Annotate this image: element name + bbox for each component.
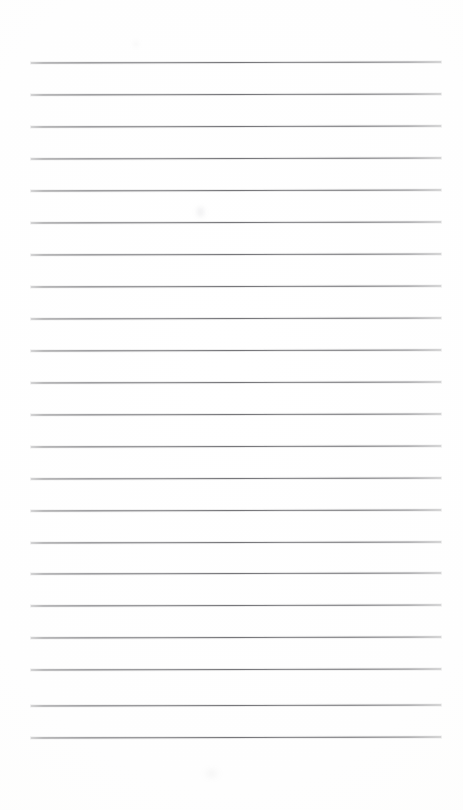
ruled-line: [31, 254, 441, 256]
ruled-line: [31, 446, 441, 448]
ruled-line: [31, 637, 441, 639]
ruled-line: [31, 62, 441, 64]
ruled-line: [31, 126, 441, 128]
ruled-line: [31, 190, 441, 192]
ruled-line: [31, 542, 441, 544]
paper-page: [0, 0, 463, 810]
ruled-line: [31, 737, 441, 739]
ruled-line: [31, 669, 441, 671]
ruled-line: [31, 510, 441, 512]
ruled-lines-layer: [0, 0, 463, 810]
ruled-line: [31, 478, 441, 480]
ruled-line: [31, 414, 441, 416]
ruled-line: [31, 350, 441, 352]
ruled-line: [31, 94, 441, 96]
ruled-line: [31, 222, 441, 224]
ruled-line: [31, 382, 441, 384]
ruled-line: [31, 605, 441, 607]
ruled-line: [31, 573, 441, 575]
ruled-line: [31, 705, 441, 707]
ruled-line: [31, 318, 441, 320]
ruled-line: [31, 286, 441, 288]
ruled-line: [31, 158, 441, 160]
